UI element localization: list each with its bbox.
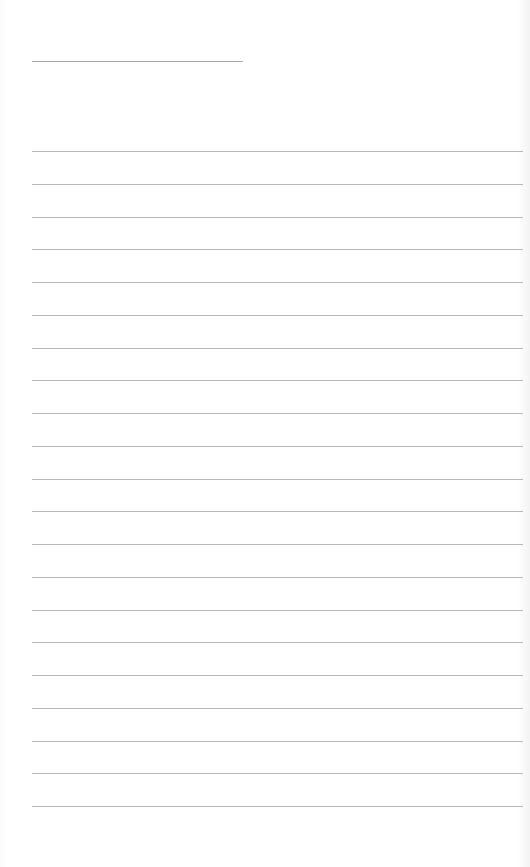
ruled-line bbox=[32, 249, 523, 250]
lined-paper-page bbox=[0, 0, 530, 867]
ruled-line bbox=[32, 708, 523, 709]
ruled-line bbox=[32, 315, 523, 316]
ruled-line bbox=[32, 544, 523, 545]
ruled-line bbox=[32, 348, 523, 349]
ruled-line bbox=[32, 577, 523, 578]
ruled-line bbox=[32, 610, 523, 611]
ruled-line bbox=[32, 741, 523, 742]
ruled-line bbox=[32, 511, 523, 512]
ruled-line bbox=[32, 380, 523, 381]
ruled-line bbox=[32, 446, 523, 447]
title-underline bbox=[32, 61, 243, 62]
ruled-line bbox=[32, 413, 523, 414]
ruled-line bbox=[32, 184, 523, 185]
ruled-line bbox=[32, 642, 523, 643]
ruled-line bbox=[32, 479, 523, 480]
ruled-line bbox=[32, 773, 523, 774]
ruled-line bbox=[32, 282, 523, 283]
ruled-line bbox=[32, 675, 523, 676]
ruled-line bbox=[32, 806, 523, 807]
ruled-line bbox=[32, 151, 523, 152]
ruled-line bbox=[32, 217, 523, 218]
